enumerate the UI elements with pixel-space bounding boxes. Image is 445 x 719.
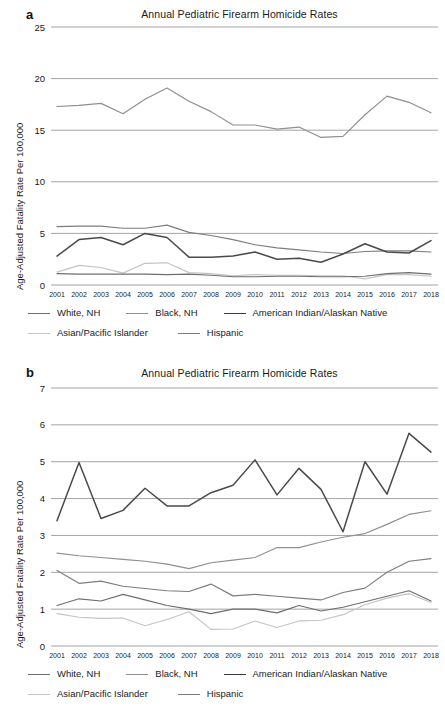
y-tick-label-5: 5 [40,228,45,239]
series-line-hispanic [57,559,431,600]
y-tick-label-7: 7 [40,383,45,394]
x-tick-label-2012: 2012 [291,291,307,298]
legend-row-1-b: White, NH Black, NH American Indian/Alas… [0,664,445,684]
x-tick-label-2012: 2012 [291,652,307,659]
x-tick-label-2010: 2010 [247,652,263,659]
legend-label-black-nh-b: Black, NH [155,669,197,679]
x-tick-label-2015: 2015 [357,291,373,298]
x-tick-label-2004: 2004 [115,291,131,298]
y-tick-label-2: 2 [40,567,45,578]
legend-row-1-a: White, NH Black, NH American Indian/Alas… [0,303,445,323]
legend-swatch-white-nh-b [28,674,50,675]
x-tick-label-2013: 2013 [313,652,329,659]
legend-swatch-hispanic-b [178,694,200,695]
legend-b: White, NH Black, NH American Indian/Alas… [0,664,445,704]
x-tick-label-2008: 2008 [203,291,219,298]
plot-area-b: 0123456720012002200320042005200620072008… [0,358,445,661]
legend-item-asian-pacific-a: Asian/Pacific Islander [28,328,148,338]
x-tick-label-2014: 2014 [335,652,351,659]
series-line-american-indian-alaskan-native [57,233,431,262]
legend-swatch-american-indian-b [224,674,246,675]
plot-area-a: 0510152025200120022003200420052006200720… [0,0,445,300]
series-line-black-nh [57,511,431,569]
legend-row-2-b: Asian/Pacific Islander Hispanic [0,684,445,704]
x-tick-label-2008: 2008 [203,652,219,659]
y-tick-label-4: 4 [40,493,45,504]
legend-item-hispanic-a: Hispanic [178,328,243,338]
y-tick-label-15: 15 [34,125,45,136]
legend-swatch-american-indian-a [224,313,246,314]
legend-item-american-indian-a: American Indian/Alaskan Native [224,308,388,318]
x-tick-label-2017: 2017 [401,652,417,659]
legend-swatch-black-nh-b [126,674,148,675]
x-tick-label-2011: 2011 [269,291,284,298]
x-tick-label-2007: 2007 [181,652,197,659]
y-tick-label-6: 6 [40,419,45,430]
legend-item-asian-pacific-b: Asian/Pacific Islander [28,689,148,699]
legend-label-hispanic-b: Hispanic [207,689,243,699]
x-tick-label-2005: 2005 [137,652,153,659]
legend-label-asian-pacific-a: Asian/Pacific Islander [57,328,148,338]
chart-panel-a: a Annual Pediatric Firearm Homicide Rate… [0,0,445,358]
y-tick-label-1: 1 [40,604,45,615]
x-tick-label-2016: 2016 [379,652,395,659]
legend-label-hispanic-a: Hispanic [207,328,243,338]
x-tick-label-2016: 2016 [379,291,395,298]
legend-item-hispanic-b: Hispanic [178,689,243,699]
x-tick-label-2013: 2013 [313,291,329,298]
x-tick-label-2009: 2009 [225,652,241,659]
series-line-hispanic [57,225,431,253]
x-tick-label-2011: 2011 [269,652,284,659]
x-tick-label-2007: 2007 [181,291,197,298]
y-tick-label-0: 0 [40,280,45,291]
legend-label-american-indian-b: American Indian/Alaskan Native [253,669,388,679]
legend-item-white-nh-a: White, NH [28,308,100,318]
legend-item-black-nh-a: Black, NH [126,308,197,318]
y-tick-label-5: 5 [40,456,45,467]
y-tick-label-25: 25 [34,22,45,33]
legend-label-white-nh-a: White, NH [57,308,100,318]
x-tick-label-2017: 2017 [401,291,417,298]
series-line-american-indian-alaskan-native [57,433,431,531]
x-tick-label-2018: 2018 [423,291,439,298]
x-tick-label-2018: 2018 [423,652,439,659]
legend-label-american-indian-a: American Indian/Alaskan Native [253,308,388,318]
x-tick-label-2003: 2003 [93,652,109,659]
x-tick-label-2014: 2014 [335,291,351,298]
legend-item-american-indian-b: American Indian/Alaskan Native [224,669,388,679]
legend-label-asian-pacific-b: Asian/Pacific Islander [57,689,148,699]
y-tick-label-0: 0 [40,641,45,652]
x-tick-label-2004: 2004 [115,652,131,659]
legend-item-black-nh-b: Black, NH [126,669,197,679]
x-tick-label-2010: 2010 [247,291,263,298]
x-tick-label-2001: 2001 [49,291,65,298]
legend-swatch-black-nh-a [126,313,148,314]
legend-label-white-nh-b: White, NH [57,669,100,679]
x-tick-label-2005: 2005 [137,291,153,298]
y-tick-label-10: 10 [34,176,45,187]
legend-label-black-nh-a: Black, NH [155,308,197,318]
x-tick-label-2002: 2002 [71,291,87,298]
legend-item-white-nh-b: White, NH [28,669,100,679]
x-tick-label-2015: 2015 [357,652,373,659]
x-tick-label-2006: 2006 [159,291,175,298]
legend-swatch-white-nh-a [28,313,50,314]
legend-row-2-a: Asian/Pacific Islander Hispanic [0,323,445,343]
x-tick-label-2009: 2009 [225,291,241,298]
x-tick-label-2003: 2003 [93,291,109,298]
x-tick-label-2006: 2006 [159,652,175,659]
y-tick-label-20: 20 [34,73,45,84]
legend-swatch-asian-pacific-a [28,333,50,334]
legend-swatch-asian-pacific-b [28,694,50,695]
chart-panel-b: b Annual Pediatric Firearm Homicide Rate… [0,358,445,719]
legend-a: White, NH Black, NH American Indian/Alas… [0,303,445,343]
x-tick-label-2001: 2001 [49,652,65,659]
y-tick-label-3: 3 [40,530,45,541]
legend-swatch-hispanic-a [178,333,200,334]
x-tick-label-2002: 2002 [71,652,87,659]
